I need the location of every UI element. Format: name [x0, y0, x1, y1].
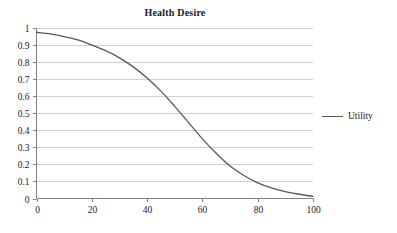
x-axis-ticks: [38, 199, 314, 203]
legend-label-utility: Utility: [348, 112, 373, 122]
y-axis-tick-label: 1: [25, 24, 30, 34]
x-axis-tick-label: 40: [143, 205, 153, 215]
y-axis-tick-label: 0.7: [18, 75, 30, 85]
x-axis-tick-label: 80: [254, 205, 264, 215]
y-axis-tick-label: 0.1: [18, 177, 30, 187]
y-axis-tick-label: 0.3: [18, 143, 30, 153]
chart-legend: Utility: [322, 112, 373, 122]
y-axis-tick-label: 0.6: [18, 92, 30, 102]
y-axis-tick-label: 0.2: [18, 160, 30, 170]
series-line-utility: [37, 32, 314, 196]
y-axis-tick-label: 0.4: [18, 126, 30, 136]
y-axis-ticks: [33, 29, 37, 200]
chart-container: Health Desire 10.90.80.70.60.50.40.30.20…: [0, 0, 397, 233]
x-axis-tick-label: 20: [88, 205, 98, 215]
gridlines: [37, 29, 314, 182]
y-axis-tick-label: 0.8: [18, 58, 30, 68]
x-axis-tick-label: 100: [306, 205, 321, 215]
y-axis-labels: 10.90.80.70.60.50.40.30.20.10: [18, 24, 30, 205]
y-axis-tick-label: 0.9: [18, 41, 30, 51]
x-axis-tick-label: 60: [198, 205, 208, 215]
y-axis-tick-label: 0: [25, 195, 30, 205]
x-axis-labels: 020406080100: [35, 205, 321, 215]
legend-line-swatch: [322, 116, 343, 117]
y-axis-tick-label: 0.5: [18, 109, 30, 119]
x-axis-tick-label: 0: [35, 205, 40, 215]
